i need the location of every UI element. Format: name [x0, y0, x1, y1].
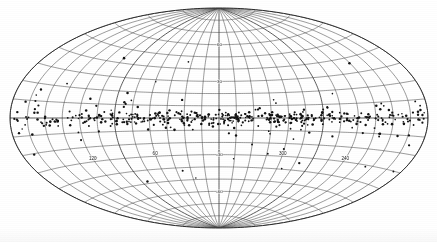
source-point [194, 118, 196, 120]
source-point [329, 115, 332, 118]
source-point [126, 113, 128, 115]
source-point [291, 118, 294, 121]
source-point [246, 115, 248, 117]
source-point [134, 121, 136, 123]
source-point [227, 113, 229, 115]
source-point [224, 119, 226, 121]
source-point [123, 57, 126, 60]
source-point [332, 117, 334, 119]
source-point [384, 121, 386, 123]
source-point [234, 116, 237, 119]
source-point [389, 114, 391, 116]
source-point [93, 118, 95, 120]
source-point [331, 111, 333, 113]
source-point [217, 123, 219, 125]
source-point [222, 118, 224, 120]
source-point [143, 118, 145, 120]
source-point [163, 118, 165, 120]
source-point [33, 112, 35, 114]
source-point [162, 124, 164, 126]
source-point [331, 135, 333, 137]
source-point [159, 117, 161, 119]
source-point [313, 119, 315, 121]
source-point [218, 114, 220, 116]
source-point [24, 100, 26, 102]
source-point [208, 116, 210, 118]
source-point [285, 122, 287, 124]
source-point [204, 118, 207, 121]
source-point [183, 124, 185, 126]
latitude-tick-label: 60 [217, 42, 222, 47]
source-point [33, 153, 35, 155]
source-point [261, 114, 264, 117]
source-point [78, 132, 80, 134]
source-point [128, 115, 130, 117]
source-point [360, 112, 362, 114]
source-point [374, 127, 376, 129]
source-point [70, 119, 72, 121]
source-point [174, 114, 176, 116]
source-point [130, 121, 132, 123]
source-point [402, 116, 404, 118]
source-point [143, 120, 145, 122]
source-point [168, 109, 170, 111]
source-point [320, 114, 322, 116]
source-point [307, 114, 309, 116]
aitoff-projection-canvas: 1206003002406030-30-60 [0, 0, 437, 242]
source-point [240, 114, 242, 116]
source-point [362, 132, 364, 134]
source-point [183, 122, 185, 124]
source-point [283, 148, 285, 150]
source-point [270, 117, 272, 119]
source-point [154, 112, 157, 115]
source-point [303, 123, 305, 125]
source-point [235, 114, 237, 116]
source-point [72, 116, 74, 118]
source-point [81, 116, 83, 118]
source-point [87, 119, 89, 121]
source-point [218, 109, 220, 111]
source-point [81, 113, 83, 115]
source-point [115, 120, 117, 122]
source-point [132, 116, 134, 118]
source-point [405, 114, 408, 117]
source-point [257, 125, 259, 127]
source-point [191, 119, 193, 121]
source-point [155, 81, 157, 83]
source-point [196, 112, 198, 114]
source-point [366, 116, 369, 119]
source-point [227, 118, 229, 120]
source-point [225, 115, 227, 117]
source-point [326, 107, 328, 109]
source-point [269, 121, 272, 124]
source-point [67, 117, 69, 119]
source-point [101, 118, 103, 120]
source-point [153, 117, 155, 119]
source-point [78, 114, 80, 116]
source-point [355, 123, 358, 126]
source-point [112, 116, 114, 118]
source-point [131, 99, 133, 101]
source-point [183, 117, 185, 119]
source-point [231, 122, 233, 124]
source-point [190, 121, 192, 123]
source-point [40, 88, 42, 90]
source-point [173, 129, 176, 132]
source-point [165, 127, 167, 129]
source-point [242, 121, 244, 123]
source-point [293, 117, 296, 120]
source-point [406, 118, 408, 120]
source-point [100, 121, 103, 124]
source-point [248, 115, 250, 117]
source-point [380, 103, 382, 105]
source-point [364, 124, 366, 126]
source-point [241, 124, 243, 126]
source-point [116, 123, 118, 125]
source-point [192, 129, 194, 131]
source-point [220, 118, 222, 120]
source-point [296, 114, 298, 116]
source-point [227, 124, 229, 126]
source-point [181, 99, 183, 101]
source-point [419, 105, 421, 107]
source-point [293, 113, 295, 115]
